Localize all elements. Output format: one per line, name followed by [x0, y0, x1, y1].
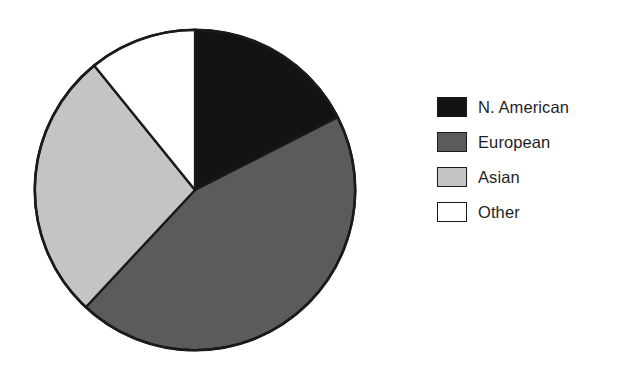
pie-chart-plot-area	[33, 28, 357, 352]
legend-label-n-american: N. American	[478, 97, 569, 117]
pie-chart-svg	[33, 28, 357, 352]
legend-label-other: Other	[478, 202, 520, 222]
legend-label-asian: Asian	[478, 167, 520, 187]
pie-slice-group	[35, 30, 355, 350]
legend-item-european[interactable]: European	[437, 131, 607, 152]
legend-item-n-american[interactable]: N. American	[437, 96, 607, 117]
legend-swatch-other	[437, 202, 467, 222]
legend-label-european: European	[478, 132, 550, 152]
legend-swatch-asian	[437, 167, 467, 187]
chart-legend: N. American European Asian Other	[437, 96, 607, 222]
legend-swatch-european	[437, 132, 467, 152]
legend-item-other[interactable]: Other	[437, 201, 607, 222]
pie-chart-figure: N. American European Asian Other	[0, 0, 617, 379]
legend-item-asian[interactable]: Asian	[437, 166, 607, 187]
legend-swatch-n-american	[437, 97, 467, 117]
